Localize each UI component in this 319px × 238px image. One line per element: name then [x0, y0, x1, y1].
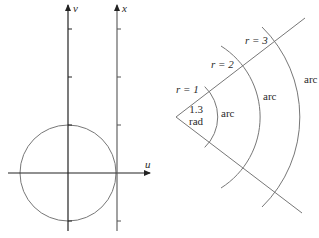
radius-label-1: r = 1 — [176, 83, 199, 95]
u-axis-label: u — [145, 158, 151, 170]
radius-label-3: r = 3 — [245, 34, 268, 46]
right-diagram: 1.3 rad r = 1 r = 2 r = 3 arc arc arc — [176, 18, 318, 213]
angle-unit-label: rad — [189, 115, 204, 127]
arc-label-2: arc — [263, 90, 277, 102]
left-diagram: v x u — [8, 2, 151, 231]
v-axis-label: v — [73, 2, 78, 14]
x-axis-label: x — [121, 2, 127, 14]
lower-ray — [176, 117, 302, 213]
radius-label-2: r = 2 — [211, 58, 234, 70]
x-line-ticks — [117, 29, 121, 221]
arc-label-3: arc — [304, 73, 318, 85]
angle-value-label: 1.3 — [189, 103, 203, 115]
arc-r3 — [262, 27, 300, 207]
arc-r1 — [205, 87, 218, 148]
diagram-canvas: v x u 1.3 rad r = 1 r = 2 r = 3 arc arc … — [0, 0, 319, 238]
arc-label-1: arc — [221, 107, 235, 119]
